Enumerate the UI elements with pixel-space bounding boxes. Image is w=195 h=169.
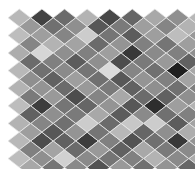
heatmap-cells-layer (8, 9, 195, 169)
diamond-heatmap-plot (0, 0, 195, 169)
figure-root (0, 0, 195, 169)
